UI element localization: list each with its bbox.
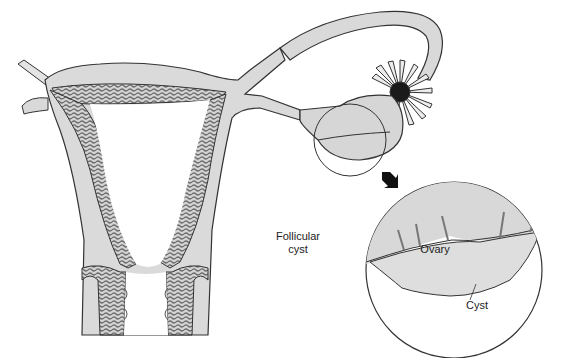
follicular-label-line1: Follicular xyxy=(268,230,328,243)
ovary xyxy=(300,95,403,176)
ovary-label: Ovary xyxy=(415,243,455,256)
cyst-label: Cyst xyxy=(462,299,492,312)
follicular-label-line2: cyst xyxy=(268,243,328,256)
inset-magnified-view xyxy=(360,180,560,358)
arrow-icon xyxy=(382,172,398,188)
uterus xyxy=(45,48,300,335)
follicular-cyst-label: Follicular cyst xyxy=(268,230,328,256)
right-fallopian-tube xyxy=(280,11,442,80)
